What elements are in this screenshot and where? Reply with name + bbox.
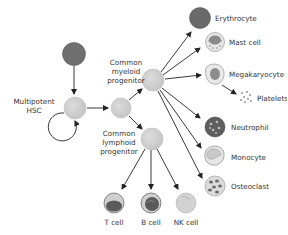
cmp-cell-icon bbox=[142, 69, 164, 91]
myeloid-outputs: Erythrocyte Mast cell Megakaryocyte Plat… bbox=[190, 8, 288, 197]
mast-cell-label: Mast cell bbox=[229, 38, 261, 47]
megakaryocyte-label: Megakaryocyte bbox=[229, 70, 285, 79]
arrow-cmp-to-neutrophil bbox=[162, 88, 200, 118]
hsc-cell-icon bbox=[64, 97, 86, 119]
clp-label-line1: Common bbox=[103, 129, 135, 138]
source-cell-icon bbox=[63, 43, 86, 66]
mast-cell-icon bbox=[206, 33, 225, 52]
clp-label-line2: lymphoid bbox=[102, 138, 135, 147]
clp-label-line3: progenitor bbox=[100, 147, 138, 156]
cmp-label-line2: myeloid bbox=[112, 67, 141, 76]
arrow-intermediate-to-clp bbox=[129, 116, 142, 129]
cmp-label-line1: Common bbox=[110, 58, 142, 67]
hsc-label-line2: HSC bbox=[27, 106, 42, 115]
neutrophil-icon bbox=[205, 117, 225, 137]
arrow-cmp-to-megakaryocyte bbox=[165, 75, 201, 79]
b-cell-icon bbox=[141, 193, 161, 213]
neutrophil-label: Neutrophil bbox=[231, 123, 268, 132]
osteoclast-label: Osteoclast bbox=[231, 182, 269, 191]
platelets-icon bbox=[240, 91, 252, 103]
t-cell-icon bbox=[104, 193, 124, 213]
platelets-label: Platelets bbox=[257, 94, 287, 103]
nk-cell-icon bbox=[176, 193, 196, 213]
arrow-clp-to-nk-cell bbox=[157, 149, 178, 189]
t-cell-label: T cell bbox=[103, 218, 123, 227]
erythrocyte-label: Erythrocyte bbox=[215, 14, 257, 23]
arrow-cmp-to-monocyte bbox=[160, 90, 201, 148]
monocyte-icon bbox=[205, 146, 224, 165]
clp-cell-icon bbox=[141, 128, 163, 150]
arrow-cmp-to-osteoclast bbox=[158, 91, 202, 178]
b-cell-label: B cell bbox=[141, 218, 161, 227]
arrow-megakaryocyte-to-platelets bbox=[222, 85, 236, 94]
erythrocyte-icon bbox=[190, 8, 211, 29]
cmp-label-line3: progenitor bbox=[107, 76, 145, 85]
hematopoiesis-diagram: Multipotent HSC Common myeloid progenito… bbox=[0, 0, 287, 235]
intermediate-progenitor-icon bbox=[111, 98, 131, 118]
osteoclast-icon bbox=[205, 176, 225, 196]
monocyte-label: Monocyte bbox=[231, 153, 267, 162]
megakaryocyte-icon bbox=[205, 64, 224, 84]
nk-cell-label: NK cell bbox=[174, 218, 199, 227]
lymphoid-outputs: T cell B cell NK cell bbox=[103, 193, 198, 227]
hsc-label-line1: Multipotent bbox=[13, 97, 54, 106]
arrow-intermediate-to-cmp bbox=[129, 89, 142, 100]
